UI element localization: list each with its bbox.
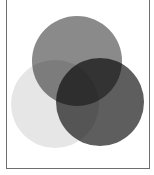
right-circle xyxy=(56,58,144,146)
venn-diagram xyxy=(0,0,154,175)
venn-figure xyxy=(0,0,154,175)
